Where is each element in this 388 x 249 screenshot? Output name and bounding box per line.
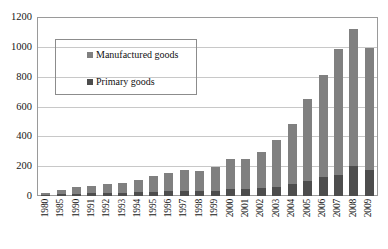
bar-segment-manufactured-goods <box>134 180 143 192</box>
bar-column <box>315 18 330 196</box>
bar-segment-primary-goods <box>272 187 281 196</box>
x-axis: 1980198519901991199219931994199519961997… <box>38 197 377 249</box>
x-axis-tick: 1985 <box>53 197 68 249</box>
stacked-bar <box>103 184 112 196</box>
bar-segment-primary-goods <box>118 193 127 196</box>
bar-column <box>362 18 377 196</box>
bar-column <box>223 18 238 196</box>
x-axis-tick-label: 2001 <box>241 199 251 217</box>
x-axis-tick-label: 1994 <box>133 199 143 217</box>
bar-segment-manufactured-goods <box>272 140 281 187</box>
stacked-bar <box>134 180 143 196</box>
bar-segment-primary-goods <box>226 189 235 196</box>
bar-segment-primary-goods <box>211 191 220 196</box>
bar-segment-manufactured-goods <box>180 170 189 191</box>
stacked-bar-chart: 120010008006004002000 198019851990199119… <box>0 0 388 249</box>
chart-legend: Manufactured goods Primary goods <box>55 39 197 95</box>
bar-segment-manufactured-goods <box>87 186 96 194</box>
y-axis-tick-label: 600 <box>16 102 32 112</box>
bar-segment-primary-goods <box>288 184 297 196</box>
y-axis-tick-label: 1000 <box>11 42 32 52</box>
x-axis-tick-label: 1999 <box>210 199 220 217</box>
stacked-bar <box>41 193 50 196</box>
stacked-bar <box>87 186 96 196</box>
x-axis-tick: 1993 <box>115 197 130 249</box>
stacked-bar <box>164 173 173 196</box>
bar-segment-manufactured-goods <box>319 75 328 178</box>
stacked-bar <box>57 190 66 196</box>
y-axis-tick-label: 0 <box>27 191 32 201</box>
x-axis-tick-label: 1995 <box>149 199 159 217</box>
x-axis-tick-label: 1993 <box>118 199 128 217</box>
bar-segment-primary-goods <box>72 194 81 196</box>
bar-segment-primary-goods <box>349 166 358 196</box>
bar-column <box>269 18 284 196</box>
bar-segment-manufactured-goods <box>72 187 81 194</box>
bar-segment-manufactured-goods <box>334 49 343 175</box>
bar-segment-primary-goods <box>103 193 112 196</box>
bar-segment-primary-goods <box>164 191 173 196</box>
bar-column <box>331 18 346 196</box>
y-axis-tick-label: 400 <box>16 131 32 141</box>
stacked-bar <box>180 170 189 196</box>
x-axis-tick-label: 2006 <box>318 199 328 217</box>
x-axis-tick: 2007 <box>331 197 346 249</box>
x-axis-tick: 1997 <box>177 197 192 249</box>
bar-segment-manufactured-goods <box>211 167 220 190</box>
bar-segment-primary-goods <box>180 191 189 196</box>
x-axis-tick-label: 2005 <box>303 199 313 217</box>
bar-segment-manufactured-goods <box>288 124 297 184</box>
x-axis-tick: 2008 <box>346 197 361 249</box>
stacked-bar <box>72 187 81 196</box>
bar-column <box>238 18 253 196</box>
bar-segment-primary-goods <box>334 175 343 196</box>
legend-swatch-primary-goods <box>87 79 93 85</box>
stacked-bar <box>319 75 328 196</box>
x-axis-tick: 1998 <box>192 197 207 249</box>
bar-segment-manufactured-goods <box>349 29 358 166</box>
bar-segment-primary-goods <box>319 177 328 196</box>
bar-column <box>207 18 222 196</box>
stacked-bar <box>303 99 312 196</box>
bar-column <box>254 18 269 196</box>
x-axis-tick: 1980 <box>38 197 53 249</box>
bar-segment-manufactured-goods <box>226 159 235 189</box>
bar-segment-primary-goods <box>195 191 204 196</box>
bar-segment-primary-goods <box>241 189 250 196</box>
bar-segment-primary-goods <box>57 194 66 196</box>
x-axis-tick: 2001 <box>238 197 253 249</box>
x-axis-tick: 1995 <box>146 197 161 249</box>
bar-column <box>346 18 361 196</box>
x-axis-tick: 1996 <box>161 197 176 249</box>
legend-item-primary-goods: Primary goods <box>87 77 155 87</box>
x-axis-tick-label: 2002 <box>257 199 267 217</box>
bar-segment-manufactured-goods <box>365 48 374 170</box>
bar-segment-manufactured-goods <box>303 99 312 181</box>
x-axis-tick: 2002 <box>254 197 269 249</box>
y-axis-tick-label: 800 <box>16 72 32 82</box>
x-axis-tick-label: 1980 <box>41 199 51 217</box>
legend-item-manufactured-goods: Manufactured goods <box>87 50 178 60</box>
y-axis-tick-label: 200 <box>16 161 32 171</box>
y-axis-tick-label: 1200 <box>11 12 32 22</box>
x-axis-tick: 2000 <box>223 197 238 249</box>
x-axis-tick: 1991 <box>84 197 99 249</box>
stacked-bar <box>241 159 250 196</box>
stacked-bar <box>257 152 266 196</box>
stacked-bar <box>149 176 158 196</box>
x-axis-tick-label: 1992 <box>103 199 113 217</box>
bar-segment-manufactured-goods <box>195 171 204 192</box>
x-axis-tick-label: 1990 <box>72 199 82 217</box>
x-axis-tick: 1994 <box>130 197 145 249</box>
bar-segment-primary-goods <box>257 188 266 196</box>
stacked-bar <box>226 159 235 196</box>
legend-label-manufactured-goods: Manufactured goods <box>96 50 178 60</box>
bar-column <box>300 18 315 196</box>
x-axis-tick-label: 2007 <box>334 199 344 217</box>
x-axis-tick: 1990 <box>69 197 84 249</box>
legend-swatch-manufactured-goods <box>87 52 93 58</box>
stacked-bar <box>288 124 297 196</box>
x-axis-tick: 1999 <box>207 197 222 249</box>
x-axis-tick-label: 1991 <box>87 199 97 217</box>
bar-segment-primary-goods <box>149 192 158 196</box>
